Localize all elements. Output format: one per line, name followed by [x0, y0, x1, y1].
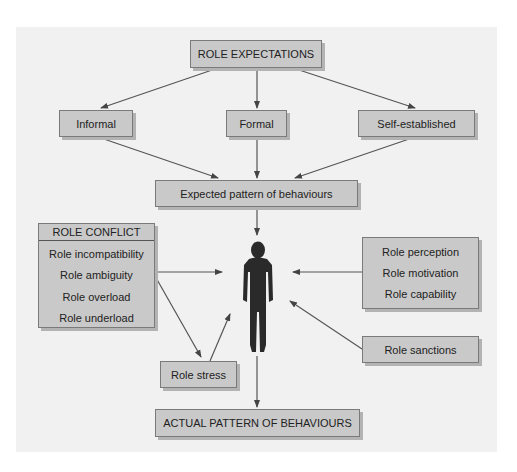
informal-label: Informal [76, 118, 116, 130]
role-expectations-box: ROLE EXPECTATIONS [190, 40, 322, 68]
role-stress-box: Role stress [160, 361, 237, 388]
individual-factors-box: Role perception Role motivation Role cap… [362, 237, 479, 309]
role-ambiguity-label: Role ambiguity [39, 269, 154, 281]
role-overload-label: Role overload [39, 291, 154, 303]
role-incompatibility-label: Role incompatibility [39, 248, 154, 260]
role-perception-label: Role perception [382, 246, 459, 258]
role-conflict-title: ROLE CONFLICT [39, 224, 154, 241]
role-expectations-label: ROLE EXPECTATIONS [198, 48, 314, 60]
informal-box: Informal [59, 110, 133, 137]
person-silhouette-icon [243, 242, 273, 353]
actual-pattern-box: ACTUAL PATTERN OF BEHAVIOURS [155, 409, 360, 437]
expected-pattern-box: Expected pattern of behaviours [155, 180, 358, 207]
role-capability-label: Role capability [385, 288, 457, 300]
role-sanctions-box: Role sanctions [362, 336, 479, 363]
formal-box: Formal [226, 110, 287, 137]
formal-label: Formal [239, 118, 273, 130]
role-stress-label: Role stress [171, 369, 226, 381]
expected-pattern-label: Expected pattern of behaviours [180, 188, 332, 200]
self-established-label: Self-established [377, 118, 455, 130]
self-established-box: Self-established [358, 110, 475, 137]
role-underload-label: Role underload [39, 312, 154, 324]
role-conflict-box: ROLE CONFLICT Role incompatibility Role … [38, 223, 155, 328]
role-sanctions-label: Role sanctions [384, 344, 456, 356]
role-motivation-label: Role motivation [383, 267, 459, 279]
actual-pattern-label: ACTUAL PATTERN OF BEHAVIOURS [163, 417, 351, 429]
